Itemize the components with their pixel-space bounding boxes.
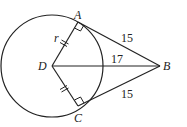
label-c: C [74, 111, 83, 125]
label-ab-length: 15 [121, 31, 133, 45]
tangent-cb [78, 66, 160, 106]
label-cb-length: 15 [121, 87, 133, 101]
label-b: B [163, 59, 171, 73]
tangent-circle-diagram: A B C D r 15 17 15 [0, 0, 187, 127]
radius-dc [52, 66, 78, 106]
label-db-length: 17 [111, 52, 123, 66]
congruence-mark-dc [60, 86, 69, 93]
label-a: A [73, 8, 82, 22]
label-d: D [37, 59, 47, 73]
label-radius-r: r [54, 31, 59, 45]
